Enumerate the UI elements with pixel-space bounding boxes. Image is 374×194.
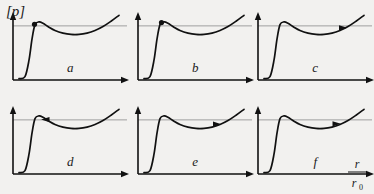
y-axis-label: [p] xyxy=(6,3,25,19)
x-axis-label-denominator: r xyxy=(352,176,357,190)
state-marker-dot xyxy=(32,22,37,27)
figure-background xyxy=(0,0,374,194)
state-marker-dot xyxy=(159,20,164,25)
panel-label: d xyxy=(67,154,74,169)
panel-label: c xyxy=(312,60,318,75)
six-panel-pressure-figure: abcdef [p] r r 0 xyxy=(0,0,374,194)
figure-container: abcdef [p] r r 0 xyxy=(0,0,374,194)
panel-label: e xyxy=(192,154,198,169)
x-axis-label-numerator: r xyxy=(355,157,360,171)
x-axis-label-subscript: 0 xyxy=(359,183,363,192)
panel-label: a xyxy=(67,60,74,75)
panel-label: b xyxy=(192,60,199,75)
